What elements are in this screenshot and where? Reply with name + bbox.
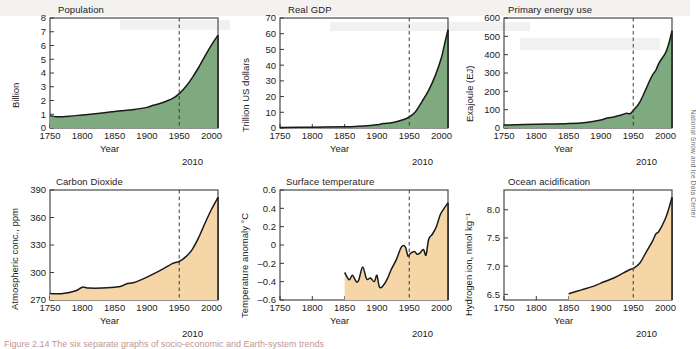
svg-text:0: 0	[271, 239, 276, 250]
svg-text:1900: 1900	[366, 130, 387, 141]
svg-text:20: 20	[265, 91, 276, 102]
svg-text:1900: 1900	[136, 130, 157, 141]
svg-text:2000: 2000	[201, 130, 222, 141]
svg-text:10: 10	[265, 107, 276, 118]
svg-text:300: 300	[30, 267, 46, 278]
plot-primary-energy-use: 0100200300400500600175018001850190019502…	[458, 4, 682, 164]
svg-text:1850: 1850	[334, 130, 355, 141]
svg-text:330: 330	[30, 239, 46, 250]
plot-carbon-dioxide: 270300330360390175018001850190019502000	[4, 176, 228, 336]
svg-text:1800: 1800	[302, 302, 323, 313]
svg-text:0.2: 0.2	[263, 221, 276, 232]
svg-text:8: 8	[41, 12, 46, 23]
svg-text:1: 1	[41, 109, 46, 120]
svg-text:–0.4: –0.4	[258, 276, 277, 287]
svg-text:2000: 2000	[431, 130, 452, 141]
svg-text:1900: 1900	[590, 302, 611, 313]
chart-panel-real-gdp: Real GDP Trillion US dollars Year 2010 0…	[234, 4, 458, 164]
svg-text:300: 300	[484, 67, 500, 78]
svg-text:1750: 1750	[493, 130, 514, 141]
svg-text:6.5: 6.5	[487, 289, 500, 300]
svg-text:1850: 1850	[558, 302, 579, 313]
svg-text:2000: 2000	[201, 302, 222, 313]
svg-text:3: 3	[41, 81, 46, 92]
svg-text:2000: 2000	[655, 130, 676, 141]
plot-population: 012345678175018001850190019502000	[4, 4, 228, 164]
plot-real-gdp: 010203040506070175018001850190019502000	[234, 4, 458, 164]
svg-text:8.0: 8.0	[487, 204, 500, 215]
svg-text:1950: 1950	[399, 302, 420, 313]
plot-ocean-acidification: 6.57.07.58.0175018001850190019502000	[458, 176, 682, 336]
svg-text:2000: 2000	[431, 302, 452, 313]
svg-text:1850: 1850	[558, 130, 579, 141]
svg-text:1800: 1800	[526, 130, 547, 141]
svg-text:1950: 1950	[399, 130, 420, 141]
figure-caption: Figure 2.14 The six separate graphs of s…	[4, 339, 324, 349]
svg-text:70: 70	[265, 12, 276, 23]
plot-surface-temperature: –0.6–0.4–0.200.20.40.6175018001850190019…	[234, 176, 458, 336]
svg-text:50: 50	[265, 44, 276, 55]
svg-text:1900: 1900	[590, 130, 611, 141]
chart-panel-ocean-acidification: Ocean acidification Hydrogen ion, nmol k…	[458, 176, 682, 336]
svg-text:30: 30	[265, 75, 276, 86]
svg-text:1900: 1900	[366, 302, 387, 313]
svg-text:1850: 1850	[104, 302, 125, 313]
svg-text:5: 5	[41, 54, 46, 65]
svg-text:1950: 1950	[623, 302, 644, 313]
svg-text:500: 500	[484, 31, 500, 42]
svg-text:0.4: 0.4	[263, 203, 276, 214]
svg-text:–0.2: –0.2	[258, 258, 277, 269]
svg-text:1900: 1900	[136, 302, 157, 313]
svg-text:1750: 1750	[39, 302, 60, 313]
svg-text:1850: 1850	[104, 130, 125, 141]
svg-text:200: 200	[484, 86, 500, 97]
svg-text:390: 390	[30, 184, 46, 195]
svg-text:400: 400	[484, 49, 500, 60]
svg-text:2000: 2000	[655, 302, 676, 313]
svg-text:4: 4	[41, 67, 46, 78]
svg-text:7: 7	[41, 26, 46, 37]
svg-text:1800: 1800	[72, 302, 93, 313]
chart-panel-surface-temperature: Surface temperature Temperature anomaly …	[234, 176, 458, 336]
chart-panel-population: Population Billion Year 2010 01234567817…	[4, 4, 228, 164]
svg-text:7.0: 7.0	[487, 261, 500, 272]
svg-text:1950: 1950	[169, 302, 190, 313]
svg-text:40: 40	[265, 60, 276, 71]
svg-text:1800: 1800	[72, 130, 93, 141]
chart-panel-primary-energy-use: Primary energy use Exajoule (EJ) Year 20…	[458, 4, 682, 164]
svg-text:1950: 1950	[169, 130, 190, 141]
svg-text:1750: 1750	[493, 302, 514, 313]
svg-text:100: 100	[484, 104, 500, 115]
svg-text:7.5: 7.5	[487, 232, 500, 243]
chart-panel-carbon-dioxide: Carbon Dioxide Atmospheric conc., ppm Ye…	[4, 176, 228, 336]
svg-text:1800: 1800	[302, 130, 323, 141]
svg-text:1750: 1750	[39, 130, 60, 141]
svg-text:600: 600	[484, 12, 500, 23]
svg-text:2: 2	[41, 95, 46, 106]
svg-text:1750: 1750	[269, 130, 290, 141]
svg-text:1800: 1800	[526, 302, 547, 313]
svg-text:60: 60	[265, 28, 276, 39]
figure-credit: National Snow and Ice Data Center	[689, 110, 696, 219]
svg-text:1750: 1750	[269, 302, 290, 313]
svg-text:0.6: 0.6	[263, 184, 276, 195]
svg-text:360: 360	[30, 212, 46, 223]
svg-text:1850: 1850	[334, 302, 355, 313]
svg-text:1950: 1950	[623, 130, 644, 141]
svg-text:6: 6	[41, 40, 46, 51]
